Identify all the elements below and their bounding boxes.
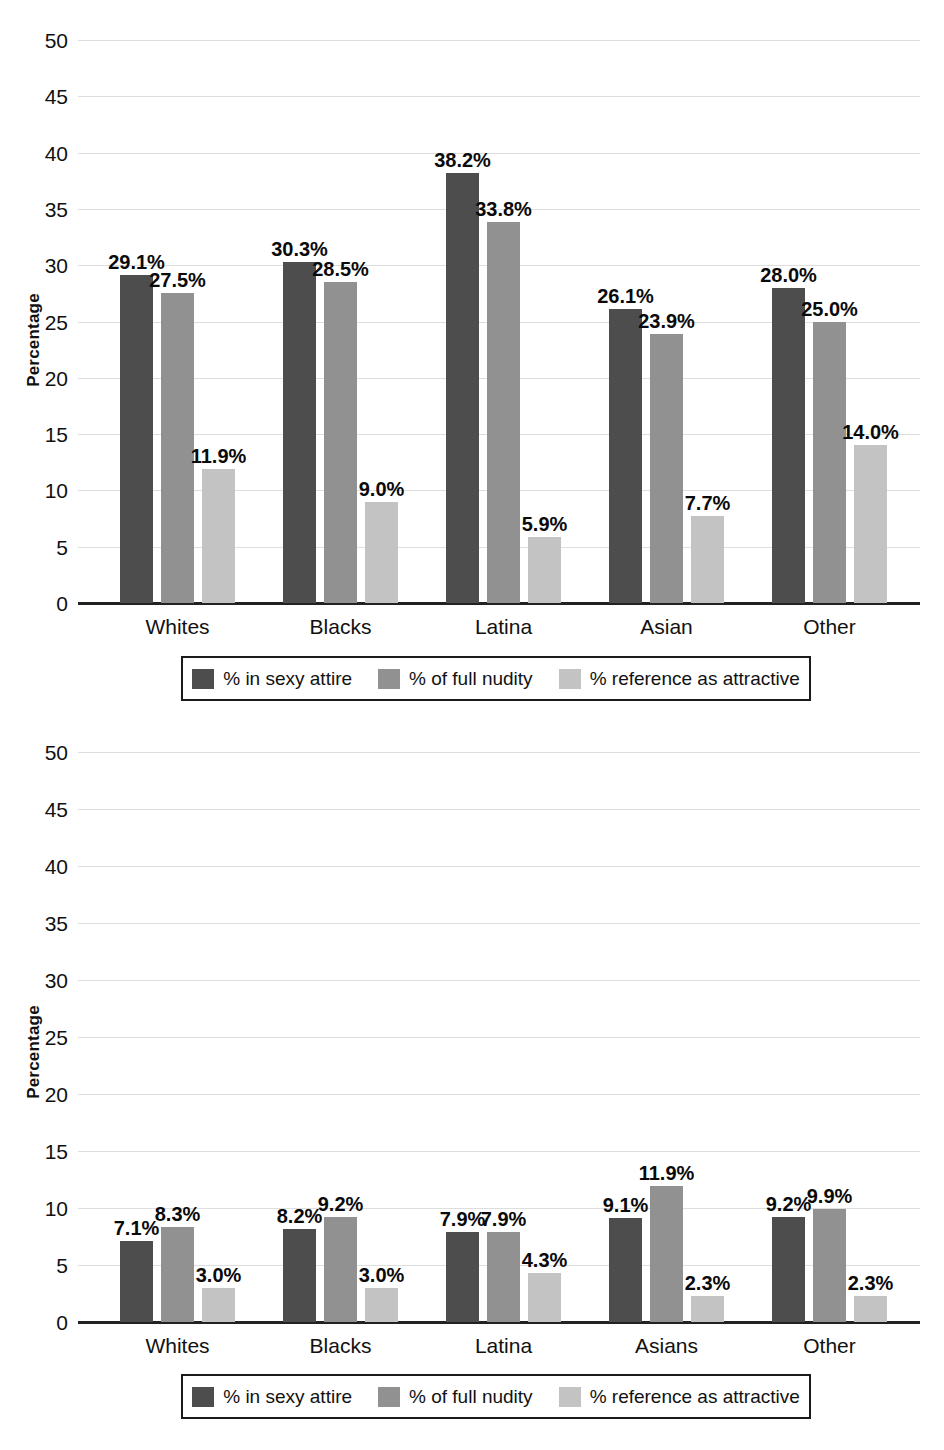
top-chart-bar-fill	[650, 334, 683, 603]
bottom-chart-bar[interactable]: 8.2%	[283, 1229, 316, 1322]
top-chart-y-tick-label: 20	[45, 367, 68, 388]
top-chart-bar-group: 38.2%33.8%5.9%Latina	[446, 40, 561, 603]
bottom-chart-bar[interactable]: 7.9%	[487, 1232, 520, 1322]
top-chart-bar-fill	[813, 322, 846, 604]
top-chart-bar-fill	[772, 288, 805, 603]
top-chart-legend-swatch-icon	[192, 669, 214, 689]
bottom-chart-bar-value-label: 9.1%	[603, 1195, 649, 1215]
top-chart-bar[interactable]: 14.0%	[854, 445, 887, 603]
top-chart-bar[interactable]: 23.9%	[650, 334, 683, 603]
bottom-chart-y-tick-label: 20	[45, 1084, 68, 1105]
top-chart-bar-fill	[446, 173, 479, 603]
top-chart-legend-item[interactable]: % of full nudity	[378, 669, 533, 689]
top-chart-bar-value-label: 33.8%	[475, 199, 532, 219]
top-chart-bar-group: 28.0%25.0%14.0%Other	[772, 40, 887, 603]
top-chart-bar-fill	[854, 445, 887, 603]
bottom-chart-legend-swatch-icon	[559, 1387, 581, 1407]
bottom-chart-bar-value-label: 4.3%	[522, 1250, 568, 1270]
top-chart-y-tick-label: 30	[45, 255, 68, 276]
bottom-chart-legend-item[interactable]: % reference as attractive	[559, 1387, 800, 1407]
bottom-chart-y-tick-label: 10	[45, 1198, 68, 1219]
top-chart-bar-fill	[609, 309, 642, 603]
bottom-chart-y-tick-label: 45	[45, 799, 68, 820]
bottom-chart-bar[interactable]: 11.9%	[650, 1186, 683, 1322]
bottom-chart-y-tick-label: 0	[56, 1312, 68, 1333]
top-chart-bar[interactable]: 33.8%	[487, 222, 520, 603]
top-chart-bar[interactable]: 30.3%	[283, 262, 316, 603]
bottom-chart-bar-value-label: 7.9%	[481, 1209, 527, 1229]
bottom-chart-bar-value-label: 3.0%	[196, 1265, 242, 1285]
top-chart-bar[interactable]: 28.5%	[324, 282, 357, 603]
top-chart-x-category-label: Blacks	[310, 616, 372, 637]
top-chart-x-category-label: Whites	[145, 616, 209, 637]
bottom-chart-bar[interactable]: 7.9%	[446, 1232, 479, 1322]
top-chart-bar[interactable]: 38.2%	[446, 173, 479, 603]
bottom-chart-bar[interactable]: 9.2%	[324, 1217, 357, 1322]
top-chart-bar-value-label: 38.2%	[434, 150, 491, 170]
bottom-chart-x-category-label: Asians	[635, 1335, 698, 1356]
top-chart-bar[interactable]: 27.5%	[161, 293, 194, 603]
bottom-chart-bar-group: 7.9%7.9%4.3%Latina	[446, 752, 561, 1322]
top-chart-x-category-label: Asian	[640, 616, 693, 637]
top-chart-bar[interactable]: 11.9%	[202, 469, 235, 603]
top-chart-bar[interactable]: 29.1%	[120, 275, 153, 603]
top-chart-bar-value-label: 9.0%	[359, 479, 405, 499]
top-chart-bar-fill	[528, 537, 561, 603]
bottom-chart-legend-item[interactable]: % in sexy attire	[192, 1387, 352, 1407]
top-chart-bar[interactable]: 9.0%	[365, 502, 398, 603]
top-chart-y-tick-label: 0	[56, 593, 68, 614]
bottom-chart-legend-label: % reference as attractive	[590, 1387, 800, 1406]
top-chart-bar-value-label: 5.9%	[522, 514, 568, 534]
bottom-chart-bar-value-label: 9.2%	[766, 1194, 812, 1214]
bottom-chart-bar[interactable]: 4.3%	[528, 1273, 561, 1322]
top-chart-y-tick-label: 40	[45, 142, 68, 163]
bottom-chart-bar-fill	[161, 1227, 194, 1322]
bottom-chart-bar[interactable]: 9.9%	[813, 1209, 846, 1322]
bottom-chart-bar-value-label: 8.3%	[155, 1204, 201, 1224]
bottom-chart-bar[interactable]: 3.0%	[365, 1288, 398, 1322]
bottom-chart-bar-fill	[324, 1217, 357, 1322]
bottom-chart-y-tick-label: 40	[45, 856, 68, 877]
top-chart-bar[interactable]: 26.1%	[609, 309, 642, 603]
bottom-chart-bar[interactable]: 2.3%	[691, 1296, 724, 1322]
bottom-chart-bar[interactable]: 3.0%	[202, 1288, 235, 1322]
top-chart-bar-value-label: 23.9%	[638, 311, 695, 331]
bottom-chart-legend-item[interactable]: % of full nudity	[378, 1387, 533, 1407]
bottom-chart-bar-value-label: 11.9%	[639, 1163, 695, 1183]
bottom-chart-plot-area: 051015202530354045507.1%8.3%3.0%Whites8.…	[78, 752, 920, 1322]
top-chart-y-axis-title: Percentage	[24, 280, 44, 400]
top-chart-y-tick-label: 10	[45, 480, 68, 501]
bottom-chart-bar-fill	[120, 1241, 153, 1322]
bottom-chart-legend: % in sexy attire% of full nudity% refere…	[181, 1374, 811, 1419]
bottom-chart-bar[interactable]: 9.2%	[772, 1217, 805, 1322]
bottom-chart-bar[interactable]: 8.3%	[161, 1227, 194, 1322]
bottom-chart-bar[interactable]: 2.3%	[854, 1296, 887, 1322]
top-chart-bar-fill	[487, 222, 520, 603]
top-chart-bar-group: 30.3%28.5%9.0%Blacks	[283, 40, 398, 603]
top-chart-legend: % in sexy attire% of full nudity% refere…	[181, 656, 811, 701]
top-chart-legend-swatch-icon	[378, 669, 400, 689]
bottom-chart-y-tick-label: 25	[45, 1027, 68, 1048]
top-chart-bar[interactable]: 7.7%	[691, 516, 724, 603]
bottom-chart-x-category-label: Latina	[475, 1335, 532, 1356]
bottom-chart-y-tick-label: 50	[45, 742, 68, 763]
top-chart-bar-fill	[691, 516, 724, 603]
bottom-chart-y-tick-label: 30	[45, 970, 68, 991]
top-chart-bar[interactable]: 5.9%	[528, 537, 561, 603]
bottom-chart-bar-fill	[854, 1296, 887, 1322]
bottom-chart-bar-fill	[446, 1232, 479, 1322]
bottom-chart-y-tick-label: 35	[45, 913, 68, 934]
top-chart-bar-fill	[202, 469, 235, 603]
bottom-chart-bar-fill	[487, 1232, 520, 1322]
top-chart-bar-fill	[283, 262, 316, 603]
bottom-chart-bar-fill	[650, 1186, 683, 1322]
bottom-chart-bar[interactable]: 7.1%	[120, 1241, 153, 1322]
top-chart-legend-item[interactable]: % reference as attractive	[559, 669, 800, 689]
bottom-chart-bar-value-label: 3.0%	[359, 1265, 405, 1285]
top-chart-bar-fill	[324, 282, 357, 603]
top-chart-bar[interactable]: 25.0%	[813, 322, 846, 604]
top-chart-legend-item[interactable]: % in sexy attire	[192, 669, 352, 689]
top-chart-bar[interactable]: 28.0%	[772, 288, 805, 603]
bottom-chart-bar[interactable]: 9.1%	[609, 1218, 642, 1322]
top-chart-bar-fill	[161, 293, 194, 603]
